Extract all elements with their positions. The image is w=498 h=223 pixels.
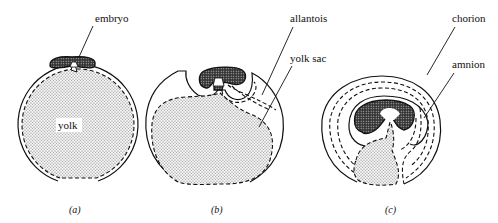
- label-yolk: yolk: [58, 119, 78, 131]
- label-amnion: amnion: [452, 58, 485, 70]
- caption-b: (b): [211, 204, 223, 216]
- caption-c: (c): [385, 204, 397, 216]
- label-embryo: embryo: [95, 12, 129, 24]
- caption-a: (a): [69, 204, 81, 216]
- label-chorion: chorion: [452, 12, 486, 24]
- label-yolk-sac: yolk sac: [290, 52, 326, 64]
- panel-c: chorion amnion (c): [322, 12, 486, 216]
- panel-a: yolk embryo (a): [18, 12, 138, 216]
- label-allantois: allantois: [290, 12, 327, 24]
- panel-b: allantois yolk sac (b): [146, 12, 327, 216]
- yolk-sac-b: [152, 93, 273, 185]
- embryo-development-diagram: yolk embryo (a) allantois yolk sac (b): [0, 0, 498, 223]
